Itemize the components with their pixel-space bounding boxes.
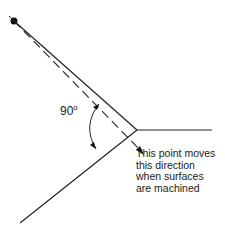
arc-arrow-bottom-icon (90, 142, 96, 149)
dashed-direction-line (14, 21, 141, 151)
angle-label: 90o (60, 103, 78, 118)
degree-symbol: o (73, 103, 77, 112)
note-line: This point moves (136, 148, 225, 160)
note-line: are machined (136, 183, 225, 195)
angle-value: 90 (60, 104, 73, 118)
lower-edge-line (20, 130, 137, 223)
angle-arc (90, 104, 99, 149)
annotation-note: This point moves this direction when sur… (136, 148, 225, 194)
diagram-canvas (0, 0, 225, 235)
note-line: when surfaces (136, 171, 225, 183)
